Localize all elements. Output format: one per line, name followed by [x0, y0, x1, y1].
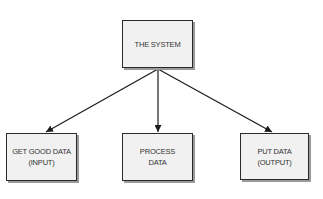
arrow-system-to-input — [46, 69, 158, 132]
node-label-line: PUT DATA — [257, 146, 291, 157]
node-label-line: (INPUT) — [12, 157, 71, 168]
node-put-data-output: PUT DATA (OUTPUT) — [240, 133, 309, 180]
node-label-line: GET GOOD DATA — [12, 146, 71, 157]
node-label-line: PROCESS — [140, 146, 175, 157]
node-label-line: DATA — [140, 157, 175, 168]
arrow-system-to-output — [158, 69, 272, 132]
node-label-line: THE SYSTEM — [135, 39, 181, 50]
node-the-system: THE SYSTEM — [122, 20, 193, 68]
system-diagram: THE SYSTEM GET GOOD DATA (INPUT) PROCESS… — [0, 0, 323, 199]
node-get-good-data-input: GET GOOD DATA (INPUT) — [6, 133, 77, 181]
node-process-data: PROCESS DATA — [122, 133, 193, 181]
node-label-line: (OUTPUT) — [257, 157, 291, 168]
